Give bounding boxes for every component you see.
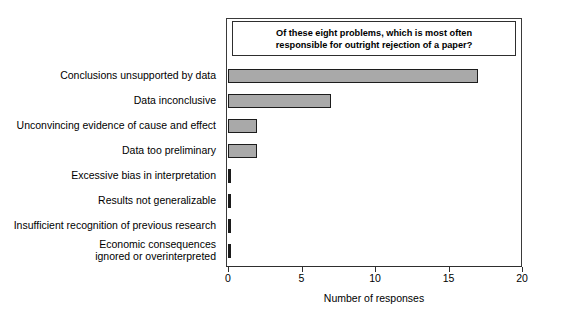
category-label-line: Data inconclusive xyxy=(0,95,216,107)
chart-title: Of these eight problems, which is most o… xyxy=(270,27,479,51)
x-axis-title: Number of responses xyxy=(226,292,522,304)
bar xyxy=(228,69,478,83)
category-label: Insufficient recognition of previous res… xyxy=(0,220,216,232)
category-label: Economic consequencesignored or overinte… xyxy=(0,239,216,262)
bar xyxy=(228,244,231,258)
category-label-line: Excessive bias in interpretation xyxy=(0,170,216,182)
category-label: Conclusions unsupported by data xyxy=(0,70,216,82)
category-label-line: ignored or overinterpreted xyxy=(0,251,216,263)
bar xyxy=(228,119,257,133)
x-tick-label: 0 xyxy=(213,272,243,284)
category-label-line: Conclusions unsupported by data xyxy=(0,70,216,82)
category-label: Data inconclusive xyxy=(0,95,216,107)
x-tick-label: 20 xyxy=(507,272,537,284)
chart-title-line-1: Of these eight problems, which is most o… xyxy=(276,28,472,38)
category-label: Unconvincing evidence of cause and effec… xyxy=(0,120,216,132)
bars-layer xyxy=(228,63,522,263)
category-label-line: Data too preliminary xyxy=(0,145,216,157)
bar xyxy=(228,144,257,158)
category-axis-labels: Conclusions unsupported by dataData inco… xyxy=(0,63,222,263)
chart-title-box: Of these eight problems, which is most o… xyxy=(232,21,516,56)
x-tick-label: 10 xyxy=(360,272,390,284)
x-tick-label: 15 xyxy=(434,272,464,284)
bar-chart: Conclusions unsupported by dataData inco… xyxy=(0,0,563,323)
x-axis-line xyxy=(226,266,522,267)
chart-title-line-2: responsible for outright rejection of a … xyxy=(276,40,473,50)
category-label-line: Unconvincing evidence of cause and effec… xyxy=(0,120,216,132)
category-label: Results not generalizable xyxy=(0,195,216,207)
category-label-line: Insufficient recognition of previous res… xyxy=(0,220,216,232)
bar xyxy=(228,169,231,183)
bar xyxy=(228,194,231,208)
category-label: Excessive bias in interpretation xyxy=(0,170,216,182)
bar xyxy=(228,94,331,108)
category-label: Data too preliminary xyxy=(0,145,216,157)
x-tick-label: 5 xyxy=(287,272,317,284)
category-label-line: Economic consequences xyxy=(0,239,216,251)
category-label-line: Results not generalizable xyxy=(0,195,216,207)
bar xyxy=(228,219,231,233)
